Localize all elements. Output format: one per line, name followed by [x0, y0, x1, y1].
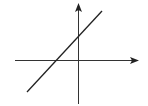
- y-axis: [75, 3, 82, 104]
- x-axis: [15, 57, 139, 64]
- plotted-line: [27, 11, 102, 92]
- diagram-canvas: [0, 0, 148, 106]
